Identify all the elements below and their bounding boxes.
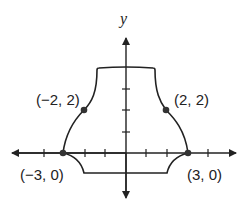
label-neg3-0: (−3, 0) <box>20 166 64 183</box>
point-2-2 <box>163 107 170 114</box>
graph: y (−2, 2) (2, 2) (−3, 0) (3, 0) <box>0 0 243 203</box>
label-3-0: (3, 0) <box>187 166 222 183</box>
y-axis-label: y <box>118 10 128 28</box>
label-neg2-2: (−2, 2) <box>36 91 80 108</box>
point-neg2-2 <box>81 107 88 114</box>
point-neg3-0 <box>60 150 67 157</box>
label-2-2: (2, 2) <box>174 91 209 108</box>
point-3-0 <box>185 150 192 157</box>
